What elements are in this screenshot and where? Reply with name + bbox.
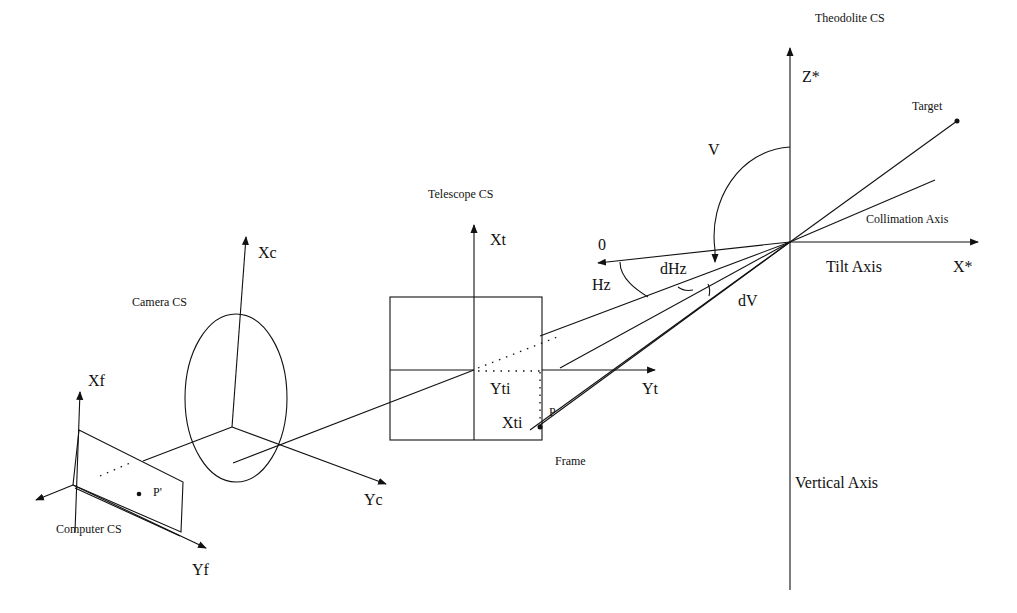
diagram-svg: Theodolite CS Z* Target Collimation Axis… xyxy=(0,0,1017,613)
camera-x-label: Xc xyxy=(258,244,277,261)
theodolite-cs-label: Theodolite CS xyxy=(815,11,885,25)
yti-label: Yti xyxy=(490,380,511,397)
theodolite-cs: Theodolite CS Z* Target Collimation Axis… xyxy=(530,11,978,590)
telescope-x-label: Xt xyxy=(490,231,507,248)
x-axis-label: X* xyxy=(953,258,973,275)
projection-dots-computer xyxy=(100,463,130,476)
frame-label: Frame xyxy=(555,454,586,468)
point-p-icon xyxy=(538,425,543,430)
target-label: Target xyxy=(912,99,943,113)
vertical-axis-label: Vertical Axis xyxy=(795,474,878,491)
dhz-angle-arc xyxy=(678,287,693,290)
hz-angle-label: Hz xyxy=(592,276,611,293)
camera-y-label: Yc xyxy=(364,491,383,508)
camera-z-axis-back xyxy=(143,427,232,461)
v-angle-arc xyxy=(714,147,790,262)
telescope-cs: Telescope CS Xt Yt Yti Xti P Frame xyxy=(390,187,659,468)
p-prime-label: P' xyxy=(153,485,162,499)
camera-y-axis xyxy=(232,427,386,484)
image-plane xyxy=(73,430,183,532)
p-label: P xyxy=(549,405,556,419)
computer-cs: Xf P' Computer CS Yf xyxy=(36,372,210,578)
collimation-axis-label: Collimation Axis xyxy=(866,212,949,226)
computer-x-label: Xf xyxy=(88,372,106,389)
tilt-axis-label: Tilt Axis xyxy=(826,258,882,275)
optical-axis-line xyxy=(233,370,474,463)
telescope-y-label: Yt xyxy=(642,380,659,397)
computer-cs-label: Computer CS xyxy=(56,522,122,536)
computer-z-axis xyxy=(36,485,73,500)
xti-label: Xti xyxy=(502,414,523,431)
camera-cs-label: Camera CS xyxy=(132,295,187,309)
telescope-cs-label: Telescope CS xyxy=(428,187,493,201)
target-point-icon xyxy=(955,119,960,124)
v-angle-label: V xyxy=(708,141,720,158)
hz-angle-arc xyxy=(620,262,648,297)
camera-cs: Camera CS Xc Yc xyxy=(132,237,474,508)
dhz-angle-label: dHz xyxy=(660,260,687,277)
projection-dots-1 xyxy=(478,336,560,368)
dv-angle-label: dV xyxy=(738,292,758,309)
camera-x-axis xyxy=(232,237,246,427)
zero-label: 0 xyxy=(598,236,606,253)
lens-ellipse xyxy=(185,314,287,482)
coordinate-systems-diagram: Theodolite CS Z* Target Collimation Axis… xyxy=(0,0,1017,613)
z-axis-label: Z* xyxy=(802,68,820,85)
computer-y-label: Yf xyxy=(192,561,210,578)
point-p-prime-icon xyxy=(137,492,142,497)
